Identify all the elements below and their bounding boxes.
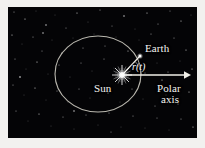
label-sun: Sun <box>94 83 111 94</box>
star-field <box>8 7 197 138</box>
sun-starburst-icon <box>112 65 132 85</box>
diagram-canvas <box>8 7 197 138</box>
star-field-panel: Earth Sun Polar axis r(t) <box>8 7 197 138</box>
label-earth: Earth <box>145 43 169 54</box>
earth-dot-icon <box>137 53 142 58</box>
label-radius-function: r(t) <box>132 62 145 72</box>
label-polar-axis-line2: axis <box>161 94 179 105</box>
orbit-diagram-figure: Earth Sun Polar axis r(t) <box>0 0 205 148</box>
